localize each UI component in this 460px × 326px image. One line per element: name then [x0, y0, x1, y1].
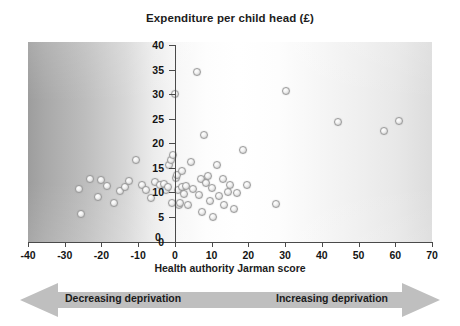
- scatter-point: [209, 213, 217, 221]
- y-tick-label: 25: [136, 113, 164, 125]
- x-tick-label: 70: [412, 249, 452, 261]
- x-tick-label: 30: [265, 249, 305, 261]
- y-tick: [169, 143, 175, 144]
- scatter-point: [184, 201, 192, 209]
- chart-title: Expenditure per child head (£): [0, 12, 460, 24]
- x-tick: [359, 242, 360, 247]
- y-tick: [169, 168, 175, 169]
- x-tick: [212, 242, 213, 247]
- scatter-point: [180, 190, 188, 198]
- scatter-point: [272, 200, 280, 208]
- x-axis-line: [28, 242, 432, 243]
- x-tick-label: 0: [155, 249, 195, 261]
- x-tick: [322, 242, 323, 247]
- scatter-point: [195, 191, 203, 199]
- scatter-point: [233, 189, 241, 197]
- scatter-point: [86, 175, 94, 183]
- y-tick-label: 40: [136, 39, 164, 51]
- y-tick: [169, 192, 175, 193]
- x-tick: [248, 242, 249, 247]
- scatter-point: [77, 210, 85, 218]
- x-tick: [65, 242, 66, 247]
- x-tick-label: 50: [339, 249, 379, 261]
- scatter-point: [208, 184, 216, 192]
- chart-root: Expenditure per child head (£) 051015202…: [0, 0, 460, 326]
- scatter-point: [178, 167, 186, 175]
- x-tick-label: 40: [302, 249, 342, 261]
- x-tick-label: -40: [8, 249, 48, 261]
- plot-area: [28, 42, 432, 242]
- scatter-point: [243, 181, 251, 189]
- x-axis-label: Health authority Jarman score: [0, 262, 460, 274]
- y-tick: [169, 45, 175, 46]
- x-tick: [28, 242, 29, 247]
- scatter-point: [125, 177, 133, 185]
- scatter-point: [239, 146, 247, 154]
- scatter-point: [230, 205, 238, 213]
- scatter-point: [176, 199, 184, 207]
- scatter-point: [215, 192, 223, 200]
- x-tick-label: 20: [228, 249, 268, 261]
- x-tick-label: -20: [81, 249, 121, 261]
- scatter-point: [224, 188, 232, 196]
- scatter-point: [193, 68, 201, 76]
- x-tick: [432, 242, 433, 247]
- scatter-point: [282, 87, 290, 95]
- scatter-point: [226, 181, 234, 189]
- scatter-point: [110, 199, 118, 207]
- y-tick: [169, 70, 175, 71]
- y-axis-line: [175, 45, 176, 242]
- scatter-point: [213, 161, 221, 169]
- scatter-point: [395, 117, 403, 125]
- increasing-deprivation-label: Increasing deprivation: [276, 292, 388, 304]
- scatter-point: [187, 158, 195, 166]
- scatter-point: [198, 208, 206, 216]
- scatter-point: [204, 172, 212, 180]
- x-tick-label: -30: [45, 249, 85, 261]
- scatter-point: [206, 197, 214, 205]
- y-axis-origin-label: 0: [155, 231, 161, 243]
- y-tick: [169, 94, 175, 95]
- y-tick-label: 15: [136, 162, 164, 174]
- deprivation-arrow-band: Decreasing deprivation Increasing depriv…: [20, 281, 440, 319]
- x-tick-label: 10: [192, 249, 232, 261]
- y-tick-label: 30: [136, 88, 164, 100]
- decreasing-deprivation-label: Decreasing deprivation: [65, 292, 181, 304]
- y-tick: [169, 217, 175, 218]
- x-tick: [101, 242, 102, 247]
- scatter-point: [164, 183, 172, 191]
- scatter-point: [219, 175, 227, 183]
- x-tick: [285, 242, 286, 247]
- y-tick-label: 10: [136, 186, 164, 198]
- scatter-point: [380, 127, 388, 135]
- scatter-point: [220, 201, 228, 209]
- x-tick: [395, 242, 396, 247]
- y-tick-label: 5: [136, 211, 164, 223]
- scatter-point: [75, 185, 83, 193]
- scatter-point: [334, 118, 342, 126]
- scatter-point: [103, 182, 111, 190]
- y-tick-label: 20: [136, 137, 164, 149]
- y-tick-label: 35: [136, 64, 164, 76]
- x-tick: [138, 242, 139, 247]
- y-tick: [169, 119, 175, 120]
- x-tick-label: 60: [375, 249, 415, 261]
- scatter-point: [200, 131, 208, 139]
- x-tick: [175, 242, 176, 247]
- scatter-point: [94, 193, 102, 201]
- x-tick-label: -10: [118, 249, 158, 261]
